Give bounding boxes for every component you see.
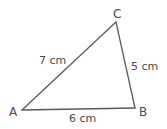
vertex-a-label: A (9, 105, 18, 119)
triangle-diagram: A B C 7 cm 5 cm 6 cm (0, 0, 167, 129)
vertex-c-label: C (113, 7, 121, 21)
side-ab (22, 108, 135, 110)
side-ac (22, 22, 116, 110)
side-bc-label: 5 cm (131, 60, 158, 73)
vertex-b-label: B (139, 105, 147, 119)
side-ac-label: 7 cm (39, 54, 66, 67)
side-ab-label: 6 cm (69, 112, 96, 125)
